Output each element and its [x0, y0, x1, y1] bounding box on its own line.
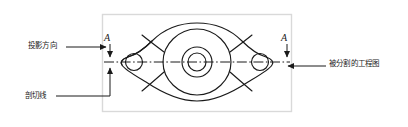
label-projection-direction: 投影方向	[28, 42, 57, 50]
section-mark-left-letter: A	[103, 32, 111, 43]
label-section-line: 剖切线	[25, 92, 47, 100]
figure-canvas: A A 投影方向 剖切线 被分割的工程图	[0, 0, 408, 127]
label-split-drawing: 被分割的工程图	[329, 60, 379, 68]
section-mark-right-letter: A	[280, 32, 288, 43]
